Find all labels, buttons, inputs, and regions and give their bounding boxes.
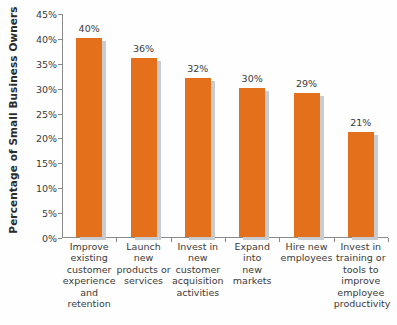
category-label-line: Invest in — [334, 241, 388, 252]
y-axis-tick-label: 15% — [36, 158, 57, 169]
bar[interactable]: 21% — [348, 132, 374, 237]
y-axis-tick-mark — [58, 188, 62, 189]
y-axis-line — [62, 14, 63, 238]
bar-chart: Percentage of Small Business Owners 45%4… — [0, 0, 397, 325]
bar[interactable]: 29% — [294, 93, 320, 237]
bar-fill — [239, 88, 265, 237]
bar[interactable]: 40% — [76, 38, 102, 237]
x-axis-category-label: Invest innewcustomeracquisitionactivitie… — [171, 241, 225, 298]
x-axis-category-label: Improveexistingcustomerexperienceandrete… — [62, 241, 116, 309]
y-axis-tick-label: 20% — [36, 133, 57, 144]
category-label-line: new — [225, 264, 279, 275]
category-label-line: existing — [62, 252, 116, 263]
y-axis-title: Percentage of Small Business Owners — [0, 0, 26, 240]
category-label-line: improve — [334, 275, 388, 286]
category-label-line: customer — [171, 264, 225, 275]
bar-fill — [294, 93, 320, 237]
category-label-line: Invest in — [171, 241, 225, 252]
x-axis-category-labels: Improveexistingcustomerexperienceandrete… — [62, 241, 388, 325]
category-label-line: productivity — [334, 298, 388, 309]
category-label-line: into — [225, 252, 279, 263]
category-label-line: customer — [62, 264, 116, 275]
category-label-line: employees — [279, 252, 333, 263]
y-axis-tick-mark — [58, 213, 62, 214]
y-axis-tick-mark — [58, 138, 62, 139]
y-axis-tick-mark — [58, 238, 62, 239]
category-label-line: markets — [225, 275, 279, 286]
category-label-line: Expand — [225, 241, 279, 252]
category-label-line: training or — [334, 252, 388, 263]
y-axis-tick-label: 0% — [42, 233, 57, 244]
bar[interactable]: 36% — [131, 58, 157, 237]
y-axis-tick-label: 45% — [36, 9, 57, 20]
bar-value-label: 21% — [350, 117, 371, 128]
category-label-line: Hire new — [279, 241, 333, 252]
y-axis-tick-mark — [58, 114, 62, 115]
bar[interactable]: 30% — [239, 88, 265, 237]
bar-value-label: 36% — [133, 43, 154, 54]
x-axis-tick-mark — [388, 238, 389, 242]
bar-value-label: 32% — [187, 63, 208, 74]
category-label-line: experience — [62, 275, 116, 286]
category-label-line: activities — [171, 287, 225, 298]
bar-value-label: 30% — [242, 73, 263, 84]
y-axis-tick-mark — [58, 64, 62, 65]
y-axis-tick-labels: 45%40%35%30%25%20%15%10%5%0% — [24, 14, 60, 238]
category-label-line: Launch new — [116, 241, 170, 264]
y-axis-tick-label: 25% — [36, 108, 57, 119]
x-axis-category-label: Expandintonewmarkets — [225, 241, 279, 287]
y-axis-tick-label: 30% — [36, 83, 57, 94]
bar-fill — [185, 78, 211, 237]
bar-value-label: 40% — [79, 23, 100, 34]
bar-value-label: 29% — [296, 78, 317, 89]
plot-area: 40%36%32%30%29%21% — [62, 14, 388, 238]
category-label-line: employee — [334, 287, 388, 298]
category-label-line: new — [171, 252, 225, 263]
x-axis-category-label: Hire newemployees — [279, 241, 333, 264]
y-axis-tick-label: 35% — [36, 58, 57, 69]
y-axis-tick-mark — [58, 89, 62, 90]
bar-fill — [131, 58, 157, 237]
y-axis-tick-label: 40% — [36, 33, 57, 44]
category-label-line: Improve — [62, 241, 116, 252]
bar-fill — [76, 38, 102, 237]
category-label-line: tools to — [334, 264, 388, 275]
y-axis-tick-label: 5% — [42, 208, 57, 219]
category-label-line: services — [116, 275, 170, 286]
x-axis-category-label: Invest intraining ortools toimproveemplo… — [334, 241, 388, 309]
category-label-line: acquisition — [171, 275, 225, 286]
category-label-line: retention — [62, 298, 116, 309]
y-axis-tick-mark — [58, 39, 62, 40]
bar[interactable]: 32% — [185, 78, 211, 237]
y-axis-tick-mark — [58, 14, 62, 15]
y-axis-title-text: Percentage of Small Business Owners — [7, 6, 19, 233]
bar-fill — [348, 132, 374, 237]
x-axis-category-label: Launch newproducts orservices — [116, 241, 170, 287]
category-label-line: and — [62, 287, 116, 298]
y-axis-tick-mark — [58, 163, 62, 164]
y-axis-tick-label: 10% — [36, 183, 57, 194]
category-label-line: products or — [116, 264, 170, 275]
